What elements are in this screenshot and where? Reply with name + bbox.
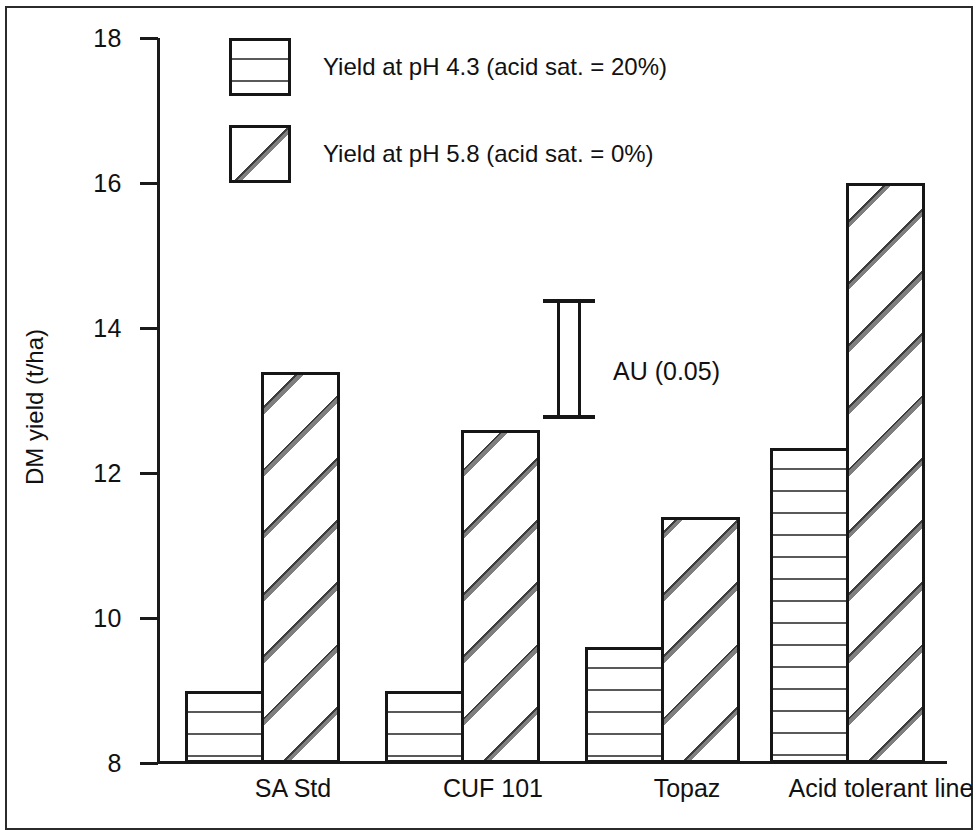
y-axis-tick bbox=[140, 472, 158, 475]
y-axis-tick bbox=[140, 617, 158, 620]
y-axis-tick bbox=[140, 327, 158, 330]
bar-acid-tolerant-line-ph43 bbox=[770, 448, 849, 763]
y-axis-tick-label: 8 bbox=[62, 749, 122, 778]
legend-item-ph-5-8: Yield at pH 5.8 (acid sat. = 0%) bbox=[229, 125, 667, 183]
x-axis-label-acid-tolerant-line: Acid tolerant line bbox=[751, 774, 979, 803]
error-bar-label: AU (0.05) bbox=[613, 357, 720, 386]
error-bar-marker bbox=[543, 299, 595, 419]
y-axis-tick-label: 10 bbox=[62, 604, 122, 633]
legend-swatch-ph-4-3-icon bbox=[229, 38, 291, 96]
figure-frame: 18 16 14 12 10 8 DM yield (t/ha) SA Std … bbox=[5, 6, 973, 830]
y-axis-tick bbox=[140, 37, 158, 40]
bar-cuf-101-ph43 bbox=[385, 691, 464, 764]
error-bar-stem bbox=[557, 301, 560, 417]
error-bar-stem bbox=[578, 301, 581, 417]
legend-label-ph-5-8: Yield at pH 5.8 (acid sat. = 0%) bbox=[323, 140, 654, 168]
x-axis-label-sa-std: SA Std bbox=[203, 774, 383, 803]
bar-sa-std-ph58 bbox=[261, 372, 340, 764]
bar-cuf-101-ph58 bbox=[461, 430, 540, 764]
error-bar-bottom-cap bbox=[543, 415, 595, 419]
bar-topaz-ph43 bbox=[585, 647, 664, 763]
legend-label-ph-4-3: Yield at pH 4.3 (acid sat. = 20%) bbox=[323, 53, 667, 81]
legend-item-ph-4-3: Yield at pH 4.3 (acid sat. = 20%) bbox=[229, 38, 667, 96]
y-axis-tick bbox=[140, 182, 158, 185]
y-axis-tick-label: 14 bbox=[62, 314, 122, 343]
y-axis-tick-label: 16 bbox=[62, 169, 122, 198]
x-axis-label-cuf-101: CUF 101 bbox=[403, 774, 583, 803]
bar-sa-std-ph43 bbox=[185, 691, 264, 764]
legend-swatch-ph-5-8-icon bbox=[229, 125, 291, 183]
bar-acid-tolerant-line-ph58 bbox=[846, 183, 925, 763]
y-axis-title: DM yield (t/ha) bbox=[21, 207, 49, 607]
bar-topaz-ph58 bbox=[661, 517, 740, 764]
legend: Yield at pH 4.3 (acid sat. = 20%) Yield … bbox=[229, 38, 667, 212]
y-axis-tick-label: 18 bbox=[62, 24, 122, 53]
y-axis-tick-label: 12 bbox=[62, 459, 122, 488]
y-axis-tick bbox=[140, 762, 158, 765]
error-bar-top-cap bbox=[543, 299, 595, 303]
x-axis-label-topaz: Topaz bbox=[597, 774, 777, 803]
